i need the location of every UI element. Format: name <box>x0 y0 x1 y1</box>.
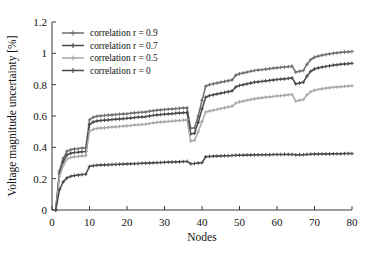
series-marker <box>283 65 287 69</box>
series-marker <box>200 99 204 103</box>
series-marker <box>253 81 257 85</box>
legend-label-2: correlation r = 0.5 <box>90 53 158 63</box>
x-tick-label: 70 <box>309 216 321 228</box>
series-marker <box>136 115 140 119</box>
series-marker <box>316 66 320 70</box>
series-marker <box>343 62 347 66</box>
series-marker <box>166 160 170 164</box>
series-marker <box>151 114 155 118</box>
series-marker <box>189 139 193 143</box>
series-marker <box>339 63 343 67</box>
series-marker <box>133 116 137 120</box>
series-marker <box>129 162 133 166</box>
series-marker <box>324 65 328 69</box>
series-marker <box>140 162 144 166</box>
series-marker <box>256 68 260 72</box>
series-marker <box>260 96 264 100</box>
series-marker <box>346 84 350 88</box>
series-marker <box>121 117 125 121</box>
series-marker <box>283 153 287 157</box>
series-marker <box>253 153 257 157</box>
series-marker <box>346 62 350 66</box>
y-tick-label: 1.2 <box>33 16 47 28</box>
series-marker <box>181 111 185 115</box>
series-marker <box>275 66 279 70</box>
series-marker <box>99 114 103 118</box>
series-marker <box>193 131 197 135</box>
x-tick-label: 30 <box>159 216 171 228</box>
series-marker <box>316 54 320 58</box>
series-marker <box>245 153 249 157</box>
series-marker <box>211 154 215 158</box>
series-marker <box>95 119 99 123</box>
series-marker <box>350 62 354 66</box>
series-marker <box>335 152 339 156</box>
series-marker <box>271 153 275 157</box>
series-marker <box>110 125 114 129</box>
series-marker <box>223 106 227 110</box>
line-chart: 00.20.40.60.811.201020304050607080 corre… <box>0 0 374 257</box>
series-marker <box>320 65 324 69</box>
series-marker <box>174 107 178 111</box>
series-marker <box>283 94 287 98</box>
series-marker <box>140 123 144 127</box>
series-marker <box>91 164 95 168</box>
series-marker <box>80 173 84 177</box>
series-marker <box>118 112 122 116</box>
series-marker <box>151 109 155 113</box>
series-marker <box>268 67 272 71</box>
series-marker <box>170 107 174 111</box>
series-marker <box>140 115 144 119</box>
series-marker <box>129 124 133 128</box>
series-marker <box>136 123 140 127</box>
series-marker <box>305 153 309 157</box>
series-marker <box>275 78 279 82</box>
chart-legend: correlation r = 0.9correlation r = 0.7co… <box>62 28 158 76</box>
chart-figure: 00.20.40.60.811.201020304050607080 corre… <box>0 0 374 257</box>
series-1 <box>54 62 354 212</box>
series-marker <box>328 52 332 56</box>
series-marker <box>339 85 343 89</box>
series-marker <box>350 152 354 156</box>
series-marker <box>178 111 182 115</box>
series-marker <box>181 160 185 164</box>
series-marker <box>110 118 114 122</box>
y-tick-label: 0 <box>42 204 48 216</box>
series-marker <box>136 162 140 166</box>
x-axis-title: Nodes <box>187 231 217 243</box>
series-marker <box>328 152 332 156</box>
series-marker <box>241 99 245 103</box>
series-marker <box>211 93 215 97</box>
series-marker <box>208 155 212 159</box>
series-marker <box>129 116 133 120</box>
series-marker <box>144 115 148 119</box>
series-marker <box>99 119 103 123</box>
series-marker <box>238 100 242 104</box>
series-marker <box>223 91 227 95</box>
series-marker <box>283 77 287 81</box>
series-marker <box>144 110 148 114</box>
series-marker <box>174 112 178 116</box>
series-marker <box>256 153 260 157</box>
series-marker <box>106 163 110 167</box>
series-marker <box>346 152 350 156</box>
series-marker <box>76 173 80 177</box>
x-tick-label: 10 <box>84 216 96 228</box>
series-marker <box>339 152 343 156</box>
series-marker <box>80 150 84 154</box>
series-marker <box>151 161 155 165</box>
series-marker <box>148 122 152 126</box>
series-marker <box>95 164 99 168</box>
series-marker <box>163 161 167 165</box>
series-marker <box>215 81 219 85</box>
series-marker <box>144 161 148 165</box>
series-marker <box>316 152 320 156</box>
series-marker <box>279 66 283 70</box>
series-marker <box>324 152 328 156</box>
series-marker <box>279 77 283 81</box>
series-marker <box>335 63 339 67</box>
series-marker <box>226 154 230 158</box>
series-marker <box>331 52 335 56</box>
series-marker <box>114 163 118 167</box>
series-marker <box>159 108 163 112</box>
